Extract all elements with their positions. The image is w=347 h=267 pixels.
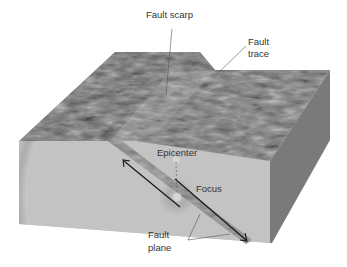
fault-plane-label-line2: plane [148, 243, 171, 253]
fault-plane-label-line1: Fault [148, 230, 169, 240]
focus-label: Focus [196, 184, 222, 194]
epicenter-label: Epicenter [157, 148, 197, 158]
fault-trace-label-line2: trace [248, 49, 269, 59]
fault-trace-label-line1: Fault [248, 37, 269, 47]
fault-block-diagram [0, 0, 347, 267]
fault-scarp-label: Fault scarp [146, 10, 193, 20]
focus-point [173, 193, 181, 201]
